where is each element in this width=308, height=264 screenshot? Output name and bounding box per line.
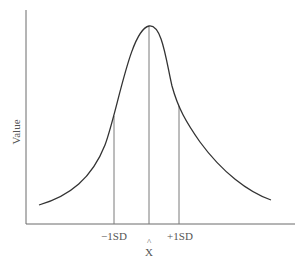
plus-1sd-label: +1SD (167, 230, 193, 242)
distribution-curve (39, 26, 271, 205)
distribution-chart: Value −1SD +1SD ^ X (0, 0, 308, 264)
minus-1sd-label: −1SD (101, 230, 127, 242)
y-axis-label: Value (10, 119, 22, 144)
mean-label: X (145, 246, 153, 258)
